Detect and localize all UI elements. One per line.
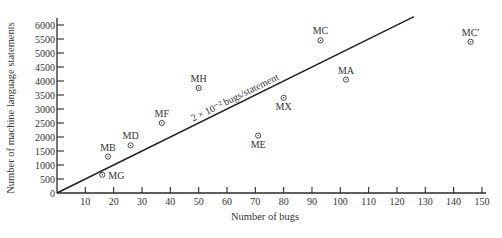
y-tick-label: 4000 [35, 76, 55, 87]
x-tick-label: 40 [165, 196, 175, 207]
axes: 102030405060708090100110120130140150 050… [35, 18, 489, 207]
x-tick-label: 130 [418, 196, 433, 207]
x-tick-label: 50 [194, 196, 204, 207]
data-point: ME [251, 133, 266, 150]
point-label: MD [123, 130, 139, 141]
x-axis-title: Number of bugs [231, 211, 299, 222]
point-label: MH [191, 73, 207, 84]
data-point: MG [100, 170, 125, 181]
x-tick-label: 90 [307, 196, 317, 207]
y-ticks: 0500100015002000250030003500400045005000… [35, 20, 64, 199]
y-tick-label: 6000 [35, 20, 55, 31]
y-tick-label: 2000 [35, 132, 55, 143]
point-center-dot [130, 145, 131, 146]
point-center-dot [161, 122, 162, 123]
data-point: MH [191, 73, 207, 91]
data-point: MF [155, 108, 170, 126]
x-tick-label: 80 [279, 196, 289, 207]
x-tick-label: 30 [137, 196, 147, 207]
point-center-dot [198, 87, 199, 88]
data-point: MB [100, 142, 116, 160]
data-point: MX [276, 95, 293, 112]
point-center-dot [470, 41, 471, 42]
y-tick-label: 4500 [35, 62, 55, 73]
y-axis-title: Number of machine language statements [5, 22, 16, 193]
point-center-dot [320, 40, 321, 41]
point-label: MA [338, 65, 355, 76]
y-tick-label: 3000 [35, 104, 55, 115]
x-tick-label: 20 [109, 196, 119, 207]
data-points: MGMBMDMFMHMEMXMCMAMC′ [100, 25, 480, 180]
data-point: MC [313, 25, 329, 43]
point-label: MX [276, 101, 293, 112]
x-tick-label: 120 [389, 196, 404, 207]
point-center-dot [283, 97, 284, 98]
point-label: MG [108, 170, 124, 181]
scatter-chart: 102030405060708090100110120130140150 050… [0, 0, 502, 238]
point-center-dot [257, 135, 258, 136]
point-label: MC [313, 25, 329, 36]
y-tick-label: 5500 [35, 34, 55, 45]
y-tick-label: 2500 [35, 118, 55, 129]
y-tick-label: 1500 [35, 146, 55, 157]
point-label: MF [155, 108, 170, 119]
x-tick-label: 150 [474, 196, 489, 207]
point-center-dot [107, 156, 108, 157]
x-tick-label: 110 [361, 196, 376, 207]
data-point: MD [123, 130, 139, 148]
x-tick-label: 140 [446, 196, 461, 207]
y-tick-label: 1000 [35, 160, 55, 171]
data-point: MA [338, 65, 355, 83]
point-label: ME [251, 139, 266, 150]
x-tick-label: 70 [250, 196, 260, 207]
point-center-dot [345, 79, 346, 80]
x-ticks: 102030405060708090100110120130140150 [80, 187, 489, 207]
y-tick-label: 3500 [35, 90, 55, 101]
x-tick-label: 60 [222, 196, 232, 207]
point-label: MC′ [462, 27, 480, 38]
reference-line [57, 17, 414, 193]
x-tick-label: 10 [80, 196, 90, 207]
y-tick-label: 0 [50, 188, 55, 199]
point-center-dot [102, 174, 103, 175]
data-point: MC′ [462, 27, 480, 45]
y-tick-label: 500 [40, 174, 55, 185]
x-tick-label: 100 [333, 196, 348, 207]
y-tick-label: 5000 [35, 48, 55, 59]
point-label: MB [100, 142, 116, 153]
